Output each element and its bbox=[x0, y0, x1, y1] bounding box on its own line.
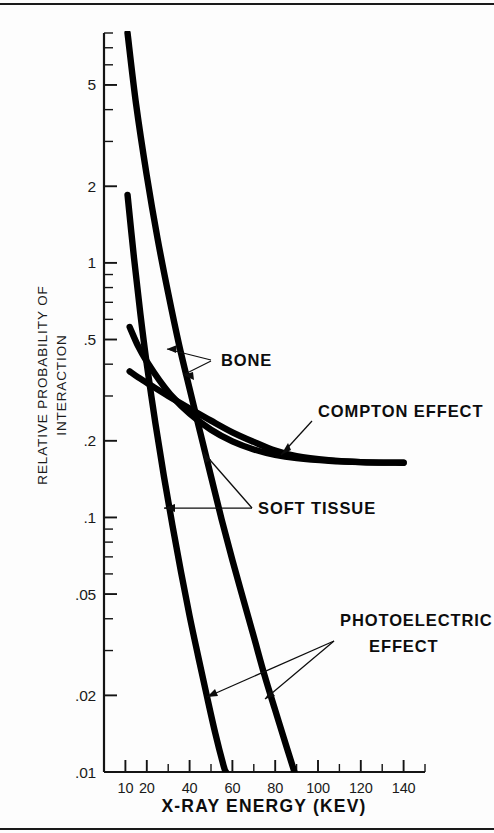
x-tick-label: 120 bbox=[349, 780, 373, 796]
annotation-photoelectric-line1: PHOTOELECTRIC bbox=[340, 611, 493, 629]
x-tick-label: 60 bbox=[225, 780, 241, 796]
x-tick-label: 20 bbox=[139, 780, 155, 796]
y-axis-minor-ticks bbox=[104, 33, 113, 651]
y-tick-label: .01 bbox=[75, 764, 96, 781]
leader-bone-a-head bbox=[167, 345, 177, 353]
annotation-soft-tissue: SOFT TISSUE bbox=[258, 499, 376, 517]
y-tick-label: 5 bbox=[88, 76, 96, 93]
y-tick-label: .02 bbox=[75, 687, 96, 704]
annotations-group: BONE COMPTON EFFECT SOFT TISSUE PHOTOELE… bbox=[221, 351, 493, 655]
y-tick-label: .2 bbox=[83, 432, 96, 449]
x-axis-tick-labels: 1020406080100120140 bbox=[118, 780, 416, 796]
leader-photoelectric-b bbox=[265, 641, 334, 699]
annotation-compton-effect: COMPTON EFFECT bbox=[318, 402, 483, 420]
x-tick-label: 40 bbox=[182, 780, 198, 796]
y-tick-label: .05 bbox=[75, 586, 96, 603]
x-tick-label: 140 bbox=[392, 780, 416, 796]
x-axis-major-ticks bbox=[125, 760, 403, 772]
y-axis-major-ticks bbox=[104, 85, 117, 772]
x-axis-title: X-RAY ENERGY (KEV) bbox=[161, 796, 366, 816]
y-tick-label: 2 bbox=[88, 178, 96, 195]
figure-canvas: 521.5.2.1.05.02.01 1020406080100120140 bbox=[0, 0, 494, 833]
y-tick-label: 1 bbox=[88, 254, 96, 271]
x-tick-label: 100 bbox=[306, 780, 330, 796]
annotation-photoelectric-line2: EFFECT bbox=[369, 637, 439, 655]
y-tick-label: .5 bbox=[83, 331, 96, 348]
y-axis-title-line2: INTERACTION bbox=[54, 334, 69, 435]
annotation-bone: BONE bbox=[221, 351, 272, 369]
axis-titles-group: X-RAY ENERGY (KEV) RELATIVE PROBABILITY … bbox=[35, 285, 367, 816]
x-tick-label: 80 bbox=[267, 780, 283, 796]
x-tick-label: 10 bbox=[118, 780, 134, 796]
y-axis-tick-labels: 521.5.2.1.05.02.01 bbox=[75, 76, 96, 780]
y-tick-label: .1 bbox=[83, 509, 96, 526]
chart-svg: 521.5.2.1.05.02.01 1020406080100120140 bbox=[0, 0, 494, 833]
y-axis-title-line1: RELATIVE PROBABILITY OF bbox=[35, 285, 50, 485]
